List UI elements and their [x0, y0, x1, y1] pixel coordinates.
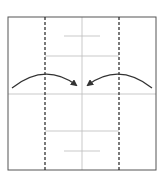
origami-diagram	[0, 0, 167, 182]
crease-lines	[8, 17, 156, 170]
left-fold-arrow-icon	[12, 74, 76, 88]
right-fold-arrow-icon	[88, 74, 152, 88]
diagram-canvas	[0, 0, 167, 182]
